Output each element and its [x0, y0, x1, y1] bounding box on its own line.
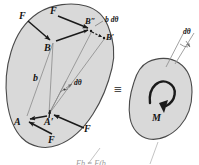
- figure-canvas: [0, 0, 199, 165]
- label-force-upper-left: F: [19, 11, 26, 21]
- label-point-a: A: [14, 117, 21, 127]
- label-angle-dtheta-left: dθ: [74, 79, 82, 87]
- label-point-b-prime: B′: [106, 33, 114, 42]
- label-arc-length-b-dtheta: b dθ: [105, 16, 118, 24]
- label-point-a-prime: A′: [44, 117, 53, 127]
- label-point-b: B: [44, 43, 51, 53]
- left-body-shape: [6, 4, 114, 147]
- label-force-lower-left: F: [48, 135, 55, 145]
- label-force-lower-right: F: [84, 124, 91, 134]
- label-moment-m: M: [152, 113, 161, 123]
- equivalence-symbol: ≡: [114, 82, 122, 98]
- figure-root: F F B B″ B′ b dθ b dθ A A′ F F ≡ dθ M Fb…: [0, 0, 199, 165]
- right-body-shape: [129, 58, 192, 139]
- label-angle-dtheta-right: dθ: [183, 28, 191, 36]
- figure-caption: Fb = F(b ...: [76, 159, 114, 165]
- label-distance-b: b: [33, 73, 38, 83]
- label-point-b-double-prime: B″: [85, 17, 95, 26]
- label-force-upper-mid: F: [50, 6, 57, 16]
